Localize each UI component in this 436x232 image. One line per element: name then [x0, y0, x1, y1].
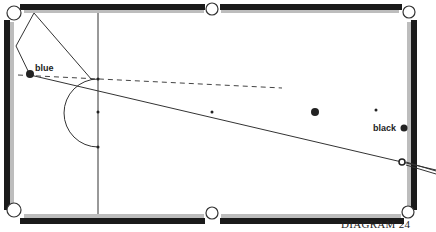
ball-pink	[311, 108, 319, 116]
ball-blue	[26, 70, 34, 78]
pocket-top-middle	[206, 3, 218, 15]
spot-black	[375, 109, 378, 112]
ball-cue	[399, 159, 405, 165]
diagram-caption: DIAGRAM 24	[341, 218, 410, 230]
spot-yellow	[97, 146, 100, 149]
d-semicircle	[64, 79, 98, 147]
cushion-left	[4, 20, 14, 210]
pocket-bottom-right	[402, 206, 414, 218]
cushion-bottom-left	[20, 214, 205, 224]
pocket-bottom-middle	[206, 207, 218, 219]
spot-blue	[211, 111, 214, 114]
spot-brown	[97, 111, 100, 114]
cushion-top-right	[220, 4, 402, 13]
ball-black	[401, 125, 408, 132]
spot-green	[97, 78, 100, 81]
cushion-top-left	[20, 4, 205, 13]
pocket-bottom-left	[7, 203, 21, 217]
snooker-table-diagram	[0, 0, 436, 232]
pocket-top-right	[403, 6, 415, 18]
cushion-right	[407, 20, 417, 210]
pocket-top-left	[7, 6, 21, 20]
label-black: black	[373, 123, 396, 133]
label-blue: blue	[35, 63, 54, 73]
